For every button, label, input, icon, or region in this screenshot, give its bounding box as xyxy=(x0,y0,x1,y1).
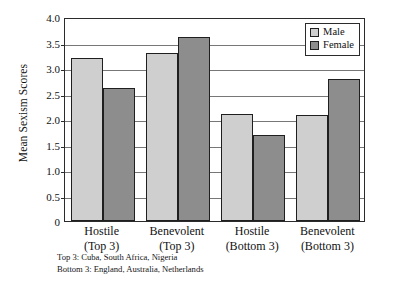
x-axis-category-label: Hostile(Bottom 3) xyxy=(226,224,279,253)
legend: Male Female xyxy=(305,23,360,56)
x-axis-category-label-line: (Bottom 3) xyxy=(300,239,355,254)
bar-female xyxy=(178,37,210,221)
y-axis-tick-label: 0.5 xyxy=(46,191,60,202)
footnote-bottom3: Bottom 3: England, Australia, Netherland… xyxy=(57,264,204,276)
x-axis-category-label-line: Hostile xyxy=(235,224,270,238)
bar-female xyxy=(103,88,135,221)
bar-male xyxy=(71,58,103,221)
footnote-top3: Top 3: Cuba, South Africa, Nigeria xyxy=(57,252,204,264)
bar-group xyxy=(216,19,291,221)
footnotes: Top 3: Cuba, South Africa, Nigeria Botto… xyxy=(57,252,204,276)
bar-male xyxy=(146,53,178,221)
legend-item-male: Male xyxy=(310,26,354,39)
legend-item-female: Female xyxy=(310,39,354,52)
legend-swatch-male-icon xyxy=(310,28,319,37)
legend-swatch-female-icon xyxy=(310,41,319,50)
y-axis-tick-label: 2.5 xyxy=(46,89,60,100)
x-axis-category-label: Benevolent(Top 3) xyxy=(150,224,205,253)
bar-male xyxy=(296,115,328,221)
plot-area: Male Female xyxy=(64,18,365,222)
y-axis-tick-label: 3.0 xyxy=(46,64,60,75)
x-axis-category-label-line: Benevolent xyxy=(150,224,205,238)
x-axis-category-labels: Hostile(Top 3)Benevolent(Top 3)Hostile(B… xyxy=(64,224,365,254)
x-axis-category-label-line: (Bottom 3) xyxy=(226,239,279,254)
x-axis-category-label-line: Hostile xyxy=(84,224,119,238)
bar-group xyxy=(65,19,140,221)
sexism-scores-bar-chart: Mean Sexism Scores 00.51.01.52.02.53.03.… xyxy=(0,0,394,281)
bar-group xyxy=(140,19,215,221)
x-axis-category-label: Benevolent(Bottom 3) xyxy=(300,224,355,253)
y-axis-tick-label: 1.5 xyxy=(46,140,60,151)
legend-label-male: Male xyxy=(323,27,345,38)
x-axis-category-label-line: Benevolent xyxy=(300,224,355,238)
y-axis-tick-label: 3.5 xyxy=(46,38,60,49)
y-axis-tick-label: 4.0 xyxy=(46,13,60,24)
bar-female xyxy=(328,79,360,221)
bar-male xyxy=(221,114,253,221)
y-axis-tick-label: 2.0 xyxy=(46,115,60,126)
y-axis-tick-label: 1.0 xyxy=(46,166,60,177)
y-axis-tick-label: 0 xyxy=(55,217,61,228)
x-axis-category-label: Hostile(Top 3) xyxy=(84,224,119,253)
y-axis-title-text: Mean Sexism Scores xyxy=(17,63,29,161)
y-axis-tick-labels: 00.51.01.52.02.53.03.54.0 xyxy=(30,18,60,222)
legend-label-female: Female xyxy=(323,40,354,51)
bar-female xyxy=(253,135,285,221)
